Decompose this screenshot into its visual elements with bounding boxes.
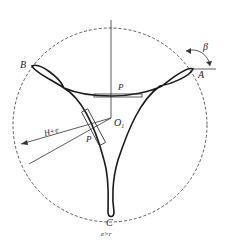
label-b: B [20,59,26,70]
arrow-head-icon [21,140,28,145]
label-a: A [197,69,205,80]
label-beta: β [202,41,208,52]
trochoid-curve [32,65,193,216]
beta-arrow-end-icon [206,61,212,66]
beta-arrow-icon [186,48,191,54]
label-p-left: P [85,134,92,144]
outer-dashed-circle [13,28,207,222]
label-center: O1 [114,117,124,129]
label-p-top: P [117,82,124,92]
label-radius: H+e [42,125,60,138]
label-c: C [106,217,113,228]
diagram-canvas: B A C β P P H+e O1 e>r [0,0,229,249]
label-condition: e>r [101,230,112,238]
